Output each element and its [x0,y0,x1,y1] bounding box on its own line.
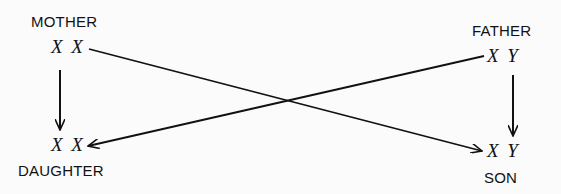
father-label: FATHER [472,22,531,39]
mother-label: MOTHER [31,13,97,30]
son-label: SON [484,169,517,186]
daughter-chromosomes: X X [51,134,85,156]
father-chromosomes: X Y [487,45,520,67]
daughter-label: DAUGHTER [18,162,104,179]
x-linked-inheritance-diagram: MOTHER X X X X DAUGHTER FATHER X Y X Y S… [0,0,561,194]
arrow-mother-to-son [89,49,482,151]
mother-chromosomes: X X [51,36,85,58]
son-chromosomes: X Y [487,140,520,162]
arrow-father-to-daughter [88,56,484,146]
